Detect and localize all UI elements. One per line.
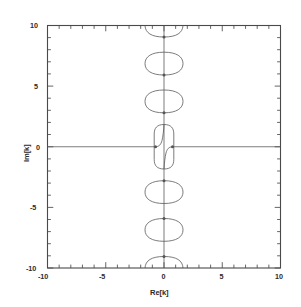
pole-marker-imag-negative-3 — [163, 255, 166, 258]
x-axis-title: Re[k] — [150, 288, 169, 297]
y-tick-label-minus-10: -10 — [26, 264, 36, 273]
y-tick-label-minus-5: -5 — [30, 203, 36, 212]
y-tick-label-10: 10 — [30, 21, 38, 30]
y-tick-label-0: 0 — [36, 143, 40, 152]
pole-marker-imag-positive-1 — [163, 111, 166, 114]
plot-figure: 10 5 0 -5 -10 -10 -5 0 5 10 Re[k] Im[k] — [0, 0, 301, 307]
data-curves — [48, 26, 281, 269]
pole-marker-imag-negative-2 — [163, 217, 166, 220]
x-tick-label-5: 5 — [220, 272, 224, 281]
y-tick-label-5: 5 — [34, 82, 38, 91]
pole-marker-imag-positive-3 — [163, 36, 166, 39]
pole-marker-imag-negative-1 — [163, 179, 166, 182]
plot-canvas — [0, 0, 301, 307]
y-axis-title: Im[k] — [22, 144, 31, 162]
pole-marker-real-positive — [171, 145, 174, 148]
x-tick-label-10: 10 — [275, 272, 283, 281]
x-tick-label-minus-10: -10 — [38, 272, 48, 281]
pole-marker-real-negative — [154, 145, 157, 148]
x-tick-label-0: 0 — [162, 272, 166, 281]
x-tick-label-minus-5: -5 — [99, 272, 105, 281]
pole-marker-imag-positive-2 — [163, 74, 166, 77]
